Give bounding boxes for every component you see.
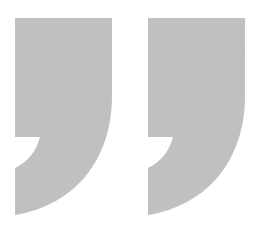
closing-quotation-marks-icon	[0, 0, 264, 228]
quote-graphic: ”	[0, 0, 264, 228]
right-quote-mark-icon	[148, 18, 245, 215]
left-quote-mark-icon	[15, 18, 112, 215]
